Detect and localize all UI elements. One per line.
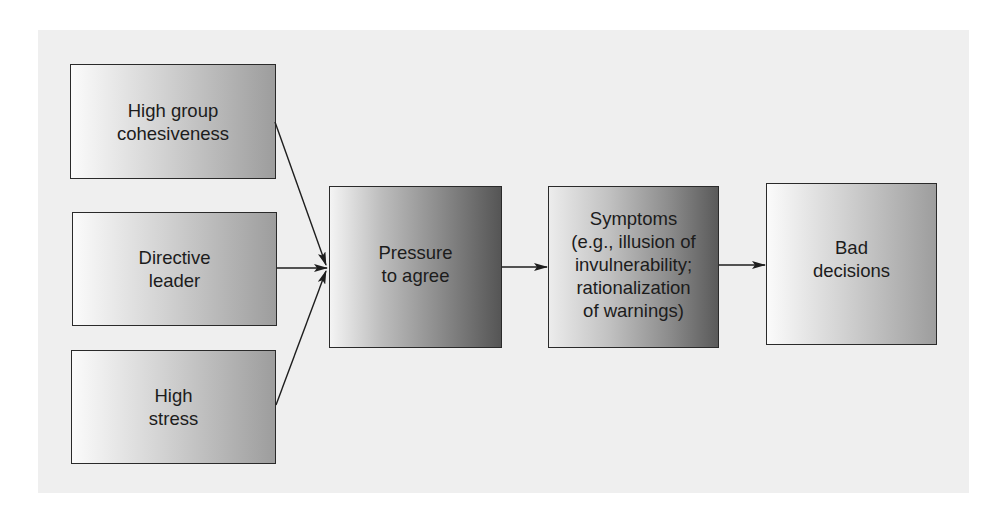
arrow-cohesiveness-to-pressure (275, 122, 326, 265)
arrow-stress-to-pressure (276, 271, 326, 405)
arrows-layer (0, 0, 1008, 510)
